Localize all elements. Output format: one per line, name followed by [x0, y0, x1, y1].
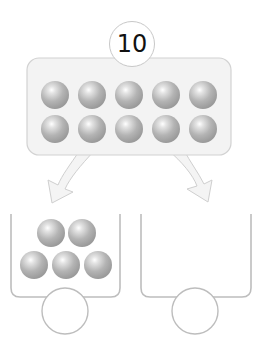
split-arrow-right [168, 150, 212, 202]
split-arrow-left [48, 150, 95, 203]
left-container [11, 214, 120, 297]
right-container [141, 214, 251, 297]
total-number-badge: 10 [109, 21, 155, 67]
left-answer-circle[interactable] [42, 288, 88, 334]
right-answer-circle[interactable] [172, 288, 218, 334]
total-number: 10 [117, 30, 148, 58]
